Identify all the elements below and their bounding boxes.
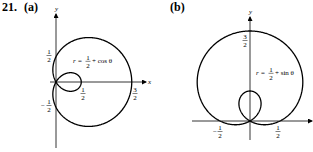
figure-canvas: x y 1 2 − 1 2 1 2 3 2 r = 1 2 — [0, 0, 313, 152]
svg-text:1: 1 — [276, 124, 280, 132]
svg-text:3: 3 — [133, 86, 137, 94]
svg-text:2: 2 — [133, 94, 137, 102]
svg-text:1: 1 — [218, 124, 222, 132]
svg-text:1: 1 — [81, 86, 85, 94]
x-axis-label-a: x — [147, 78, 152, 86]
tick-label-a-y-half: 1 2 — [47, 48, 52, 64]
svg-text:−: − — [213, 128, 217, 136]
svg-text:1: 1 — [269, 66, 273, 74]
y-axis-label-b: y — [248, 8, 253, 16]
svg-text:r =: r = — [73, 57, 82, 65]
tick-label-b-y-three-halves: 3 2 — [243, 33, 248, 49]
graph-a: x y 1 2 − 1 2 1 2 3 2 r = 1 2 — [41, 5, 152, 148]
tick-label-a-x-three-halves: 3 2 — [133, 86, 138, 102]
svg-text:2: 2 — [86, 62, 90, 70]
svg-text:2: 2 — [243, 41, 247, 49]
equation-b: r = 1 2 + sin θ — [256, 66, 295, 82]
svg-text:−: − — [41, 102, 45, 110]
svg-text:2: 2 — [47, 106, 51, 114]
svg-text:1: 1 — [86, 54, 90, 62]
y-axis-label-a: y — [54, 5, 59, 13]
tick-label-a-y-neg-half: − 1 2 — [41, 98, 51, 114]
svg-text:r =: r = — [256, 69, 265, 77]
tick-label-b-x-half: 1 2 — [276, 124, 281, 140]
svg-text:2: 2 — [276, 132, 280, 140]
tick-label-a-x-half: 1 2 — [81, 86, 86, 102]
svg-text:2: 2 — [81, 94, 85, 102]
svg-text:3: 3 — [243, 33, 247, 41]
svg-text:+ cos θ: + cos θ — [92, 57, 113, 65]
tick-label-b-x-neg-half: − 1 2 — [213, 124, 222, 140]
svg-text:1: 1 — [47, 98, 51, 106]
graph-b: y 3 2 − 1 2 1 2 r = 1 2 + sin θ — [192, 8, 312, 140]
svg-text:2: 2 — [218, 132, 222, 140]
svg-text:1: 1 — [47, 48, 51, 56]
svg-text:2: 2 — [269, 74, 273, 82]
equation-a: r = 1 2 + cos θ — [73, 54, 113, 70]
svg-text:2: 2 — [47, 56, 51, 64]
svg-text:+ sin θ: + sin θ — [275, 69, 295, 77]
